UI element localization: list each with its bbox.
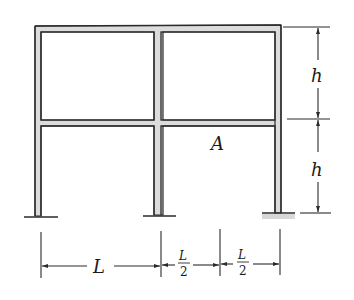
- bay-label-l-half-right: L 2: [237, 248, 249, 278]
- right-support-hatch: [262, 214, 295, 219]
- height-dimension: [283, 27, 331, 213]
- height-label-bottom: h: [311, 159, 323, 180]
- svg-text:L: L: [237, 248, 246, 262]
- svg-text:2: 2: [239, 264, 247, 278]
- bay-label-l-half-mid: L 2: [178, 249, 190, 279]
- point-a-label: A: [209, 133, 224, 154]
- svg-text:2: 2: [180, 265, 188, 279]
- bay-label-l: L: [92, 256, 105, 277]
- height-label-top: h: [311, 65, 323, 86]
- frame-diagram: A h h L: [0, 0, 354, 300]
- svg-text:L: L: [178, 249, 187, 263]
